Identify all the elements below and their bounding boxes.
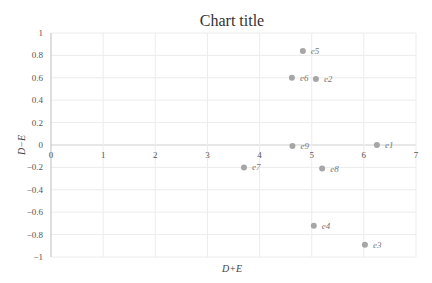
data-point-label: e4 [322, 221, 331, 231]
y-tick-label: 0.2 [32, 118, 43, 128]
x-tick-label: 6 [362, 150, 367, 160]
x-tick-label: 5 [309, 150, 314, 160]
data-point-e7 [241, 164, 247, 170]
x-tick-label: 7 [414, 150, 419, 160]
data-point-label: e6 [300, 73, 309, 83]
y-axis-ticks: 10.80.60.40.20−0.2−0.4−0.6−0.8−1 [27, 28, 44, 262]
data-point-label: e2 [324, 74, 333, 84]
data-point-label: e5 [311, 46, 320, 56]
x-tick-label: 3 [205, 150, 210, 160]
data-point-label: e8 [330, 164, 339, 174]
data-point-label: e9 [300, 141, 309, 151]
data-point-e5 [300, 48, 306, 54]
x-axis-ticks: 01234567 [49, 150, 419, 160]
y-tick-label: 0.4 [32, 95, 44, 105]
data-point-label: e7 [252, 162, 261, 172]
y-tick-label: 0 [39, 140, 44, 150]
chart-title: Chart title [200, 12, 264, 29]
x-axis-label: D+E [221, 263, 242, 274]
data-point-e1 [374, 142, 380, 148]
y-tick-label: −1 [33, 252, 43, 262]
y-tick-label: 1 [39, 28, 44, 38]
data-point-e9 [289, 143, 295, 149]
y-tick-label: 0.6 [32, 73, 44, 83]
y-tick-label: 0.8 [32, 50, 44, 60]
x-tick-label: 0 [49, 150, 54, 160]
data-point-label: e1 [385, 140, 394, 150]
data-point-e8 [319, 166, 325, 172]
data-point-e2 [313, 76, 319, 82]
y-tick-label: −0.6 [27, 207, 44, 217]
data-point-label: e3 [373, 240, 382, 250]
data-point-e4 [311, 223, 317, 229]
data-point-e3 [362, 242, 368, 248]
y-tick-label: −0.8 [27, 230, 44, 240]
x-tick-label: 4 [257, 150, 262, 160]
y-tick-label: −0.4 [27, 185, 44, 195]
y-tick-label: −0.2 [27, 162, 43, 172]
x-tick-label: 1 [101, 150, 106, 160]
y-axis-label: D−E [16, 135, 27, 156]
x-tick-label: 2 [153, 150, 158, 160]
grid-lines [51, 33, 416, 257]
data-points: e1e2e3e4e5e6e7e8e9 [241, 46, 393, 250]
data-point-e6 [289, 75, 295, 81]
scatter-chart: Chart title 10.80.60.40.20−0.2−0.4−0.6−0… [0, 0, 432, 283]
